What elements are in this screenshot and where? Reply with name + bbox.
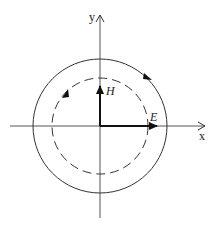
outer-rotation-arrow-icon bbox=[143, 73, 152, 80]
x-axis-label: x bbox=[199, 129, 205, 143]
e-vector-label: E bbox=[149, 110, 158, 124]
inner-rotation-arrow-icon bbox=[62, 89, 69, 98]
polarization-diagram: y x H E bbox=[0, 0, 217, 226]
h-vector-label: H bbox=[105, 84, 116, 98]
y-axis-label: y bbox=[89, 10, 95, 24]
